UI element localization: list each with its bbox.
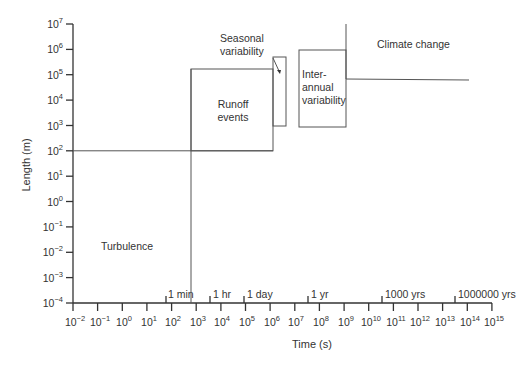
svg-text:109: 109 [338,314,354,328]
time-markers: 1 min 1 hr 1 day 1 yr 1000 yrs 1000000 y… [166,288,516,303]
svg-text:101: 101 [141,314,157,328]
svg-text:Inter-: Inter- [302,68,327,80]
svg-text:1 min: 1 min [168,288,194,300]
svg-text:10−2: 10−2 [43,244,63,258]
y-tick-labels: 107 106 105 104 103 102 101 100 10−1 10−… [43,16,63,309]
svg-text:variability: variability [302,94,347,106]
svg-text:10−3: 10−3 [43,270,63,284]
svg-text:10−4: 10−4 [43,295,63,309]
svg-text:Runoff: Runoff [218,98,249,110]
svg-text:103: 103 [190,314,206,328]
x-axis-title: Time (s) [292,338,332,350]
svg-text:10−2: 10−2 [65,314,85,328]
svg-text:1000 yrs: 1000 yrs [385,288,425,300]
y-ticks [66,24,73,303]
svg-text:108: 108 [313,314,329,328]
svg-text:10−1: 10−1 [90,314,110,328]
x-tick-labels: 10−2 10−1 100 101 102 103 104 105 106 10… [65,314,504,328]
x-ticks [73,303,492,311]
svg-text:107: 107 [288,314,304,328]
svg-text:1012: 1012 [410,314,430,328]
svg-text:events: events [218,111,249,123]
arrow-head-icon [277,70,281,74]
svg-text:1 yr: 1 yr [311,288,329,300]
svg-text:1013: 1013 [435,314,455,328]
svg-text:102: 102 [47,143,63,157]
svg-text:Climate change: Climate change [377,38,450,50]
svg-text:101: 101 [47,168,63,182]
inter-annual-variability-region: Inter- annual variability [299,50,347,127]
svg-text:variability: variability [220,45,265,57]
svg-text:Seasonal: Seasonal [220,32,264,44]
svg-text:1000000 yrs: 1000000 yrs [458,288,516,300]
climate-change-region: Climate change [346,24,469,80]
svg-text:105: 105 [239,314,255,328]
svg-text:100: 100 [116,314,132,328]
svg-text:1011: 1011 [386,314,405,328]
svg-text:104: 104 [214,314,230,328]
scale-diagram: 107 106 105 104 103 102 101 100 10−1 10−… [0,0,525,369]
svg-text:10−1: 10−1 [43,219,63,233]
svg-text:1 hr: 1 hr [213,288,232,300]
y-axis-title: Length (m) [20,138,32,191]
runoff-events-region: Runoff events [191,69,273,151]
svg-text:1010: 1010 [361,314,381,328]
svg-text:1 day: 1 day [247,288,273,300]
svg-text:107: 107 [47,16,63,30]
svg-text:106: 106 [264,314,280,328]
svg-text:annual: annual [302,81,334,93]
svg-text:102: 102 [165,314,181,328]
svg-text:104: 104 [47,92,63,106]
svg-text:105: 105 [47,67,63,81]
svg-text:106: 106 [47,41,63,55]
svg-text:Turbulence: Turbulence [101,240,153,252]
svg-text:1015: 1015 [484,314,504,328]
svg-text:103: 103 [47,118,63,132]
svg-text:100: 100 [47,194,63,208]
svg-text:1014: 1014 [460,314,480,328]
